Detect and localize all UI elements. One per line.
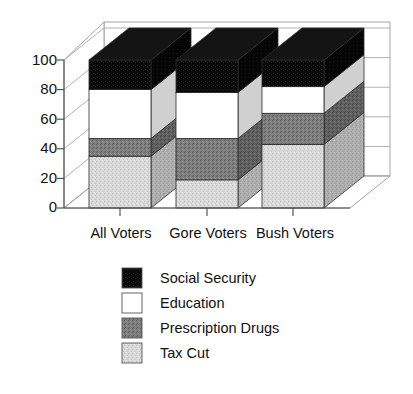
category-label-all-voters: All Voters [90,225,151,241]
legend-swatch-3 [122,343,142,363]
y-axis: 100 80 60 40 20 0 [32,51,64,215]
y-axis-ticks [57,60,64,208]
segment-prescription-drugs-front[interactable] [176,138,238,179]
segment-prescription-drugs-front[interactable] [89,138,151,156]
segment-tax-cut-front[interactable] [176,180,238,208]
legend-item-prescription-drugs[interactable]: Prescription Drugs [122,318,279,338]
y-axis-tick-labels: 100 80 60 40 20 0 [32,51,57,215]
legend-label-3: Tax Cut [160,345,209,361]
legend-item-tax-cut[interactable]: Tax Cut [122,343,209,363]
bar-column-bush-voters[interactable] [262,28,364,208]
y-tick-label-80: 80 [40,80,57,97]
segment-education-front[interactable] [89,90,151,139]
category-label-gore-voters: Gore Voters [169,225,246,241]
chart-legend: Social SecurityEducationPrescription Dru… [122,268,279,363]
segment-social-security-front[interactable] [176,60,238,93]
stacked-3d-bar-chart: 100 80 60 40 20 0 All Voters Gore Voters… [0,0,413,394]
segment-tax-cut-front[interactable] [262,144,324,208]
y-tick-label-100: 100 [32,51,57,68]
category-label-bush-voters: Bush Voters [256,225,334,241]
legend-swatch-1 [122,293,142,313]
bar-series-group [89,28,364,208]
segment-social-security-front[interactable] [89,60,151,90]
legend-label-0: Social Security [160,270,257,286]
y-tick-label-20: 20 [40,169,57,186]
segment-tax-cut-front[interactable] [89,156,151,208]
segment-education-front[interactable] [176,93,238,139]
legend-swatch-2 [122,318,142,338]
segment-education-front[interactable] [262,87,324,114]
segment-social-security-front[interactable] [262,60,324,87]
legend-swatch-0 [122,268,142,288]
legend-item-education[interactable]: Education [122,293,225,313]
legend-label-2: Prescription Drugs [160,320,279,336]
y-tick-label-60: 60 [40,110,57,127]
chart-container: 100 80 60 40 20 0 All Voters Gore Voters… [0,0,413,394]
segment-prescription-drugs-front[interactable] [262,113,324,144]
x-axis: All Voters Gore Voters Bush Voters [64,208,350,241]
y-tick-label-0: 0 [49,198,57,215]
legend-item-social-security[interactable]: Social Security [122,268,257,288]
y-tick-label-40: 40 [40,139,57,156]
legend-label-1: Education [160,295,225,311]
